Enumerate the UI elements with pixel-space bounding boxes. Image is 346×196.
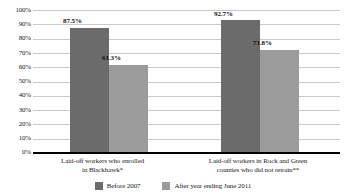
y-tick-label: 0% xyxy=(1,149,31,156)
y-tick-label: 90% xyxy=(1,21,31,28)
y-tick-label: 50% xyxy=(1,78,31,85)
bar-group2-after2011 xyxy=(260,50,299,153)
gridline xyxy=(33,10,340,11)
bar-value-label-group2-before2007: 92.7% xyxy=(201,10,246,18)
plot-area xyxy=(33,10,340,153)
bar-group1-before2007 xyxy=(70,28,109,153)
category-label-line: counties who did not retrain** xyxy=(172,166,344,175)
legend-swatch-icon xyxy=(162,182,170,190)
legend-label: Before 2007 xyxy=(107,182,141,190)
y-tick-label: 30% xyxy=(1,107,31,114)
y-tick-label: 60% xyxy=(1,64,31,71)
y-tick-label: 100% xyxy=(1,7,31,14)
y-tick-label: 20% xyxy=(1,121,31,128)
y-tick-label: 40% xyxy=(1,92,31,99)
category-label-line: in Blackhawk* xyxy=(20,166,185,175)
bar-chart: 100% 90% 80% 70% 60% 50% 40% 30% 20% 10%… xyxy=(0,0,346,196)
bar-value-label-group1-after2011: 61.3% xyxy=(89,54,134,62)
bar-group1-after2011 xyxy=(109,65,148,153)
legend-item-before-2007: Before 2007 xyxy=(95,182,141,190)
legend: Before 2007 After year ending June 2011 xyxy=(0,179,346,193)
bar-value-label-group1-before2007: 87.5% xyxy=(50,17,95,25)
legend-swatch-icon xyxy=(95,182,103,190)
category-label-line: Laid-off workers in Rock and Green xyxy=(172,157,344,166)
y-tick-label: 70% xyxy=(1,50,31,57)
bar-value-label-group2-after2011: 71.8% xyxy=(240,39,285,47)
y-tick-label: 80% xyxy=(1,35,31,42)
category-label-line: Laid-off workers who enrolled xyxy=(20,157,185,166)
legend-label: After year ending June 2011 xyxy=(174,182,251,190)
y-tick-label: 10% xyxy=(1,135,31,142)
category-label-blackhawk: Laid-off workers who enrolled in Blackha… xyxy=(20,157,185,175)
category-label-rock-green: Laid-off workers in Rock and Green count… xyxy=(172,157,344,175)
x-axis-baseline xyxy=(33,152,340,154)
legend-item-after-2011: After year ending June 2011 xyxy=(162,182,251,190)
